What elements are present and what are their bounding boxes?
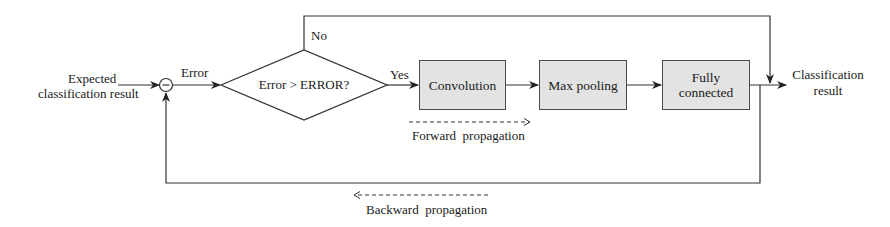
max-pooling-label: Max pooling <box>548 78 617 93</box>
yes-label: Yes <box>390 68 409 82</box>
connector-lines <box>0 0 890 227</box>
fully-connected-label-line1: Fully <box>692 70 721 85</box>
fully-connected-label-line2: connected <box>679 85 734 100</box>
convolution-block: Convolution <box>419 60 506 110</box>
error-label: Error <box>181 66 208 80</box>
fully-connected-block: Fully connected <box>662 60 750 110</box>
convolution-label: Convolution <box>429 78 497 93</box>
input-label-line1: Expected <box>68 72 116 86</box>
output-label-line1: Classification <box>776 68 880 82</box>
output-label-line2: result <box>776 84 880 98</box>
max-pooling-block: Max pooling <box>539 60 627 110</box>
no-label: No <box>311 29 327 43</box>
cnn-training-flow-diagram: Expected classification result Error Err… <box>0 0 890 227</box>
backward-propagation-label: Backward propagation <box>366 203 487 217</box>
input-label-line2: classification result <box>38 87 139 101</box>
decision-label: Error > ERROR? <box>221 78 387 92</box>
forward-propagation-label: Forward propagation <box>412 129 525 143</box>
